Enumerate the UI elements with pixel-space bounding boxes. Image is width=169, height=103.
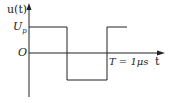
period-label: T = 1μs: [109, 57, 148, 67]
level-high-main: U: [13, 20, 22, 33]
y-axis-arrow-icon: [27, 3, 32, 10]
y-axis-label: u(t): [7, 4, 27, 15]
origin-label: O: [18, 47, 27, 58]
level-high-subscript: p: [22, 27, 26, 35]
x-axis-label: t: [155, 56, 159, 67]
level-high-label: Up: [13, 21, 27, 35]
square-wave-diagram: u(t) Up O T = 1μs t: [0, 0, 169, 103]
